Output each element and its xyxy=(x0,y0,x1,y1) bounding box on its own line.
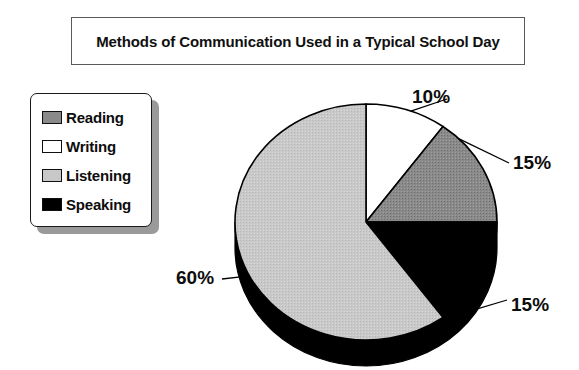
pie-chart-figure: Methods of Communication Used in a Typic… xyxy=(0,0,579,370)
pie-top-face xyxy=(235,104,497,340)
pie-graphic xyxy=(0,0,579,370)
pie-slices-group xyxy=(222,99,509,366)
data-label-reading: 15% xyxy=(513,152,551,174)
data-label-listening: 60% xyxy=(176,267,214,289)
data-label-writing: 10% xyxy=(412,86,450,108)
data-label-speaking: 15% xyxy=(511,294,549,316)
